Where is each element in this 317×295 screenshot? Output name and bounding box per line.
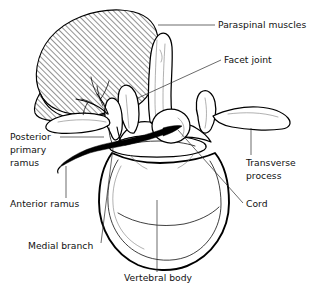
label-transverse-process-line2: process bbox=[246, 170, 282, 181]
superior-articular-process-right bbox=[196, 91, 215, 133]
label-posterior-primary-ramus-line2: primary bbox=[10, 144, 47, 155]
label-facet-joint: Facet joint bbox=[224, 54, 272, 65]
label-vertebral-body: Vertebral body bbox=[124, 272, 193, 283]
label-posterior-primary-ramus-line1: Posterior bbox=[10, 131, 51, 142]
label-medial-branch: Medial branch bbox=[28, 240, 93, 251]
label-paraspinal-muscles: Paraspinal muscles bbox=[218, 19, 306, 30]
paraspinal-muscle-mass bbox=[34, 10, 159, 121]
label-anterior-ramus: Anterior ramus bbox=[10, 198, 79, 209]
label-posterior-primary-ramus-line3: ramus bbox=[10, 157, 39, 168]
anatomical-figure: Paraspinal muscles Facet joint Transvers… bbox=[0, 0, 317, 295]
vertebra-diagram-svg: Paraspinal muscles Facet joint Transvers… bbox=[0, 0, 317, 295]
vertebral-body-mass bbox=[99, 153, 229, 270]
label-cord: Cord bbox=[246, 198, 268, 209]
transverse-process-right bbox=[213, 107, 290, 130]
label-transverse-process-line1: Transverse bbox=[245, 157, 296, 168]
